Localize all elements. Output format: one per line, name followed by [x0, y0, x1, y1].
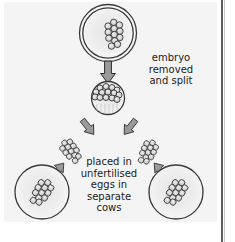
page-gutter-rule-shadow	[224, 0, 225, 242]
split-embryo-half-left	[57, 136, 85, 167]
arrow-split-left	[78, 116, 99, 138]
stage-recipient-egg-right	[149, 165, 203, 219]
embryo-splitting-diagram	[0, 0, 217, 230]
stage-removed-embryo	[92, 82, 125, 115]
arrow-embryo-removed	[101, 61, 116, 84]
stage-donor-egg	[80, 5, 137, 62]
stage-recipient-egg-left	[15, 165, 69, 219]
scanned-page: embryo removed and split placed in unfer…	[0, 0, 235, 242]
arrow-split-right	[119, 116, 140, 138]
page-gutter-rule	[221, 0, 223, 242]
split-embryo-half-right	[134, 137, 162, 168]
